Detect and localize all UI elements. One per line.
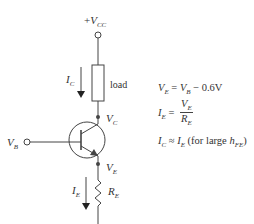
collector-node-dot-icon xyxy=(96,115,100,119)
emitter-resistor-icon xyxy=(95,180,101,206)
circuit-diagram xyxy=(0,0,254,224)
vb-symbol: V xyxy=(7,136,14,148)
collector-current-arrow-icon xyxy=(77,67,85,98)
supply-symbol: V xyxy=(90,14,97,26)
vc-symbol: V xyxy=(106,112,113,124)
supply-voltage-label: +VCC xyxy=(84,15,106,29)
load-label: load xyxy=(110,80,127,90)
eq3-rhs-rest: (for large xyxy=(185,135,229,146)
eq2-lhs-subscript: E xyxy=(162,113,166,121)
vb-subscript: B xyxy=(14,143,18,151)
emitter-current-label: IE xyxy=(72,185,80,199)
supply-terminal-icon xyxy=(95,32,101,38)
eq2-fraction: VE RE xyxy=(180,99,193,127)
npn-transistor-icon xyxy=(69,122,105,158)
eq2-numerator: VE xyxy=(180,99,193,112)
eq2-den-subscript: E xyxy=(187,119,191,127)
emitter-voltage-label: VE xyxy=(106,162,117,176)
ie-subscript: E xyxy=(76,191,80,199)
collector-voltage-label: VC xyxy=(106,113,117,127)
collector-current-label: IC xyxy=(66,74,74,88)
ve-symbol: V xyxy=(106,161,113,173)
eq3-tail-close: ) xyxy=(243,135,247,146)
eq1-lhs-subscript: E xyxy=(164,88,168,96)
eq1-rhs-rest: − 0.6V xyxy=(191,82,223,93)
equation-collector-current: IC ≈ IE (for large hFE) xyxy=(158,136,247,149)
base-voltage-label: VB xyxy=(7,137,18,151)
vc-subscript: C xyxy=(113,119,118,127)
emitter-resistor-label: RE xyxy=(108,186,119,200)
equation-emitter-voltage: VE = VB − 0.6V xyxy=(158,83,222,96)
eq3-operator: ≈ xyxy=(169,135,175,146)
re-symbol: R xyxy=(108,185,115,197)
eq3-tail-subscript: FE xyxy=(235,141,244,149)
load-resistor-icon xyxy=(92,65,104,101)
re-subscript: E xyxy=(115,192,119,200)
eq3-lhs-subscript: C xyxy=(162,141,167,149)
eq2-operator: = xyxy=(168,107,174,118)
eq2-num-subscript: E xyxy=(187,104,191,112)
supply-subscript: CC xyxy=(97,21,106,29)
emitter-current-arrow-icon xyxy=(82,177,90,210)
ve-subscript: E xyxy=(113,168,117,176)
eq1-operator: = xyxy=(171,82,177,93)
base-input-terminal-icon xyxy=(24,139,30,145)
eq2-denominator: RE xyxy=(180,112,193,127)
emitter-node-dot-icon xyxy=(96,162,100,166)
ic-subscript: C xyxy=(70,80,75,88)
